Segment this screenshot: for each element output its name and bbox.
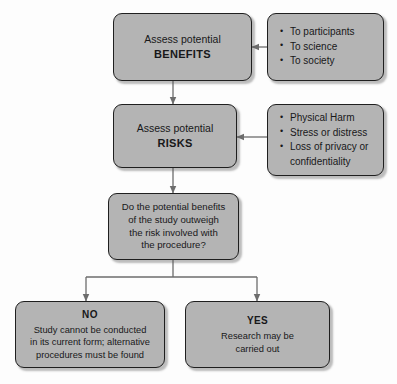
node-assess-risks-keyword: RISKS [114,136,236,151]
list-item: Stress or distress [290,126,386,141]
outcome-no-heading: NO [21,308,159,321]
node-outcome-no[interactable]: NO Study cannot be conducted in its curr… [15,301,165,368]
decision-line-2: of the study outweigh [115,214,232,227]
outcome-no-line-2: in its current form; alternative [21,336,159,348]
node-assess-benefits-line1: Assess potential [114,33,251,47]
outcome-no-line-3: procedures must be found [21,349,159,361]
list-item: Physical Harm [290,111,386,126]
benefits-bullet-list: To participants To science To society [279,25,386,69]
decision-line-1: Do the potential benefits [115,201,232,214]
outcome-yes-heading: YES [191,314,324,327]
list-item: To science [290,40,386,55]
node-outcome-yes[interactable]: YES Research may be carried out [185,301,330,368]
node-risks-examples[interactable]: Physical Harm Stress or distress Loss of… [267,104,384,176]
risks-bullet-list: Physical Harm Stress or distress Loss of… [279,111,386,169]
outcome-no-line-1: Study cannot be conducted [21,324,159,336]
list-item: To participants [290,25,386,40]
node-benefits-examples[interactable]: To participants To science To society [267,13,384,81]
list-item: To society [290,54,386,69]
node-decision-benefits-outweigh-risks[interactable]: Do the potential benefits of the study o… [108,193,239,260]
decision-line-3: the risk involved with [115,227,232,240]
decision-line-4: the procedure? [115,239,232,252]
node-assess-benefits[interactable]: Assess potential BENEFITS [113,13,252,81]
outcome-yes-line-2: carried out [191,343,324,355]
node-assess-risks[interactable]: Assess potential RISKS [113,104,237,168]
flowchart-canvas: Assess potential BENEFITS To participant… [0,0,397,384]
list-item: Loss of privacy or confidentiality [290,140,386,169]
node-assess-risks-line1: Assess potential [114,122,236,136]
outcome-yes-line-1: Research may be [191,330,324,342]
node-assess-benefits-keyword: BENEFITS [114,47,251,62]
